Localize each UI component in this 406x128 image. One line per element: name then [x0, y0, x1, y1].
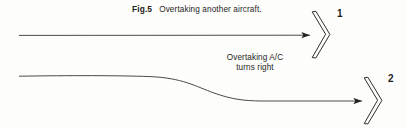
aircraft-chevron-icon-1 [312, 11, 330, 58]
annotation-line-1: Overtaking A/C [227, 53, 283, 62]
figure-container: Fig.5Overtaking another aircraft. Overta… [0, 0, 406, 128]
figure-caption: Fig.5Overtaking another aircraft. [132, 5, 262, 14]
aircraft-1-label: 1 [337, 9, 343, 19]
figure-caption-label: Fig.5 [132, 4, 152, 14]
figure-caption-text: Overtaking another aircraft. [159, 5, 262, 14]
overtaking-annotation: Overtaking A/Cturns right [222, 53, 288, 73]
figure-drawing [0, 0, 406, 128]
curved-flight-path-arrow [19, 76, 362, 101]
aircraft-chevron-icon-2 [364, 77, 382, 124]
aircraft-2-label: 2 [388, 74, 394, 84]
annotation-line-2: turns right [236, 63, 274, 72]
